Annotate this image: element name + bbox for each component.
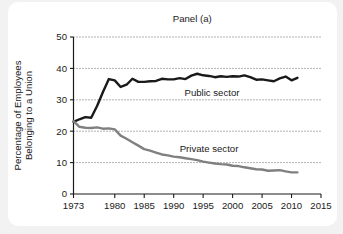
x-tick-label-2000: 2000 [222, 200, 243, 211]
axes [70, 37, 321, 198]
y-tick-label-20: 20 [56, 126, 67, 137]
figure-root: 0102030405019731980198519901995200020052… [0, 0, 343, 234]
y-tick-label-10: 10 [56, 157, 67, 168]
y-tick-label-0: 0 [62, 188, 67, 199]
x-tick-label-1995: 1995 [192, 200, 213, 211]
chart-labels: 0102030405019731980198519901995200020052… [12, 13, 332, 211]
y-tick-label-40: 40 [56, 63, 67, 74]
x-tick-label-2015: 2015 [310, 200, 331, 211]
y-axis-title-line-2: Belonging to a Union [23, 71, 34, 160]
x-tick-label-2010: 2010 [281, 200, 302, 211]
x-tick-label-1990: 1990 [163, 200, 184, 211]
x-tick-label-1973: 1973 [63, 200, 84, 211]
x-tick-label-1980: 1980 [104, 200, 125, 211]
y-axis-title-line-1: Percentage of Employees [12, 60, 23, 170]
series-annotation-public-sector: Public sector [185, 87, 241, 98]
y-tick-label-30: 30 [56, 94, 67, 105]
chart-title: Panel (a) [173, 13, 212, 24]
line-chart: 0102030405019731980198519901995200020052… [0, 0, 343, 234]
series-annotation-private-sector: Private sector [180, 143, 239, 154]
x-tick-label-1985: 1985 [134, 200, 155, 211]
y-tick-label-50: 50 [56, 31, 67, 42]
x-tick-label-2005: 2005 [251, 200, 272, 211]
